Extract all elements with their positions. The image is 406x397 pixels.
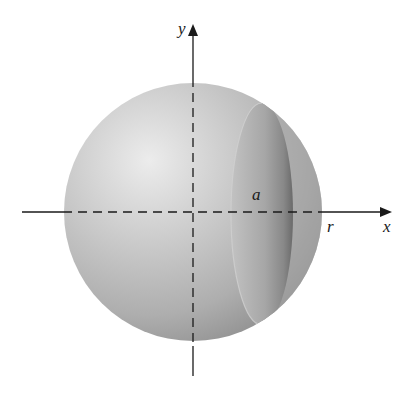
- y-axis-arrow-icon: [188, 24, 198, 36]
- radius-label: r: [327, 217, 334, 236]
- sphere-cap-diagram: y x r a: [0, 0, 406, 397]
- y-axis-label: y: [176, 19, 186, 38]
- x-axis-arrow-icon: [380, 207, 392, 217]
- cap-radius-label: a: [252, 185, 261, 204]
- x-axis-label: x: [382, 217, 391, 236]
